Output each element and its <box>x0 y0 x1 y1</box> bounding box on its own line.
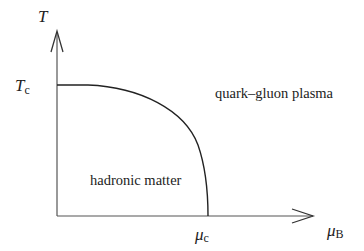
phase-boundary-curve <box>57 85 208 216</box>
muc-label: μc <box>194 225 209 245</box>
x-axis <box>57 209 313 223</box>
svg-text:μB: μB <box>326 221 344 241</box>
region-label-hadronic: hadronic matter <box>90 172 182 188</box>
phase-diagram: T Tc μc μB quark–gluon plasma hadronic m… <box>0 0 364 251</box>
svg-text:Tc: Tc <box>15 76 30 97</box>
y-axis <box>51 31 63 216</box>
svg-text:μc: μc <box>194 225 209 245</box>
region-label-qgp: quark–gluon plasma <box>215 85 334 101</box>
tc-label: Tc <box>15 76 30 97</box>
x-axis-label: μB <box>326 221 344 241</box>
y-axis-label: T <box>38 7 49 26</box>
